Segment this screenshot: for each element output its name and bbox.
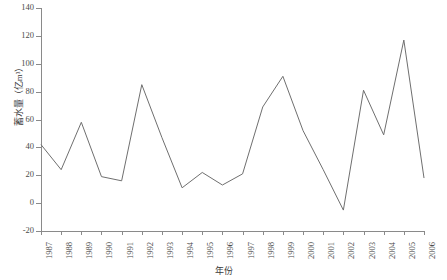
line-chart: -20020406080100120140 198719881989199019… (0, 0, 447, 280)
data-series-line (41, 40, 424, 210)
series-plot-area (0, 0, 447, 280)
